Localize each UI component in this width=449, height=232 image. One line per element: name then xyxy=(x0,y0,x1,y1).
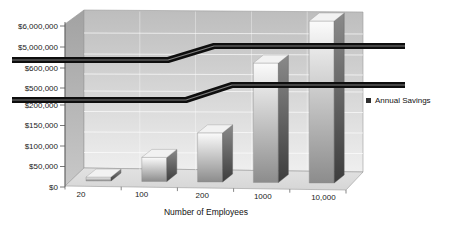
legend-marker-icon xyxy=(366,98,371,103)
y-tick-label: $50,000 xyxy=(29,162,58,171)
bar-front-face xyxy=(253,63,278,183)
bar-side-face xyxy=(223,125,233,182)
bar-1000 xyxy=(253,55,288,183)
bar-10000 xyxy=(309,13,344,183)
bar-side-face xyxy=(278,55,288,183)
x-axis-title: Number of Employees xyxy=(91,207,321,217)
y-tick-label: $100,000 xyxy=(25,142,59,151)
legend-label: Annual Savings xyxy=(375,96,431,105)
chart-canvas: $0$50,000$100,000$150,000$200,000$500,00… xyxy=(0,0,449,232)
y-tick-label: $6,000,000 xyxy=(18,22,59,31)
bar-front-face xyxy=(198,133,223,182)
y-tick-label: $0 xyxy=(49,183,58,192)
y-tick-label: $500,000 xyxy=(25,84,59,93)
bar-200 xyxy=(198,125,233,182)
x-tick-label: 10,000 xyxy=(311,193,336,202)
bar-front-face xyxy=(142,157,167,181)
x-tick-label: 20 xyxy=(77,190,86,199)
x-tick-label: 200 xyxy=(196,191,210,200)
y-tick-label: $600,000 xyxy=(25,64,59,73)
bar-chart-3d: $0$50,000$100,000$150,000$200,000$500,00… xyxy=(0,0,449,232)
legend: Annual Savings xyxy=(366,96,431,105)
bar-100 xyxy=(142,149,177,181)
x-tick-label: 1000 xyxy=(254,192,272,201)
y-tick-label: $150,000 xyxy=(25,121,59,130)
x-tick-label: 100 xyxy=(135,190,149,199)
bar-side-face xyxy=(334,13,344,183)
y-tick-label: $5,000,000 xyxy=(18,43,59,52)
bar-front-face xyxy=(86,177,111,181)
